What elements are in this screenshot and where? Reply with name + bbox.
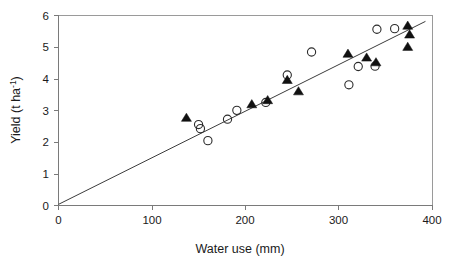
svg-text:Yield (t ha-1): Yield (t ha-1) <box>8 76 23 144</box>
data-point-open-circle <box>233 106 241 114</box>
y-tick-label: 3 <box>43 105 49 117</box>
data-point-filled-triangle <box>403 21 413 29</box>
series-filled-triangles <box>181 21 414 121</box>
data-point-filled-triangle <box>371 58 381 66</box>
data-point-filled-triangle <box>263 96 273 104</box>
y-tick-label: 0 <box>43 200 49 212</box>
x-tick-label: 400 <box>422 214 441 226</box>
data-point-open-circle <box>354 62 362 70</box>
scatter-plot: 0 1 2 3 4 5 6 0 100 200 300 400 Water us… <box>0 0 453 269</box>
x-tick-label: 300 <box>329 214 348 226</box>
x-axis-tick-labels: 0 100 200 300 400 <box>55 214 441 226</box>
x-tick-label: 100 <box>142 214 161 226</box>
data-point-filled-triangle <box>181 113 191 121</box>
y-axis-ticks <box>54 16 58 206</box>
series-open-circles <box>194 25 398 145</box>
x-axis-title: Water use (mm) <box>195 242 284 256</box>
regression-line <box>59 21 426 204</box>
data-point-open-circle <box>373 25 381 33</box>
data-point-open-circle <box>204 137 212 145</box>
y-tick-label: 2 <box>43 136 49 148</box>
data-point-open-circle <box>345 81 353 89</box>
data-point-open-circle <box>391 25 399 33</box>
y-axis-title: Yield (t ha-1) <box>8 76 23 144</box>
data-point-filled-triangle <box>362 53 372 61</box>
y-tick-label: 1 <box>43 168 49 180</box>
data-point-open-circle <box>307 48 315 56</box>
y-axis-tick-labels: 0 1 2 3 4 5 6 <box>43 10 50 212</box>
data-point-filled-triangle <box>247 100 257 108</box>
y-tick-label: 5 <box>43 41 49 53</box>
chart-figure: 0 1 2 3 4 5 6 0 100 200 300 400 Water us… <box>0 0 453 269</box>
data-point-filled-triangle <box>343 49 353 57</box>
x-tick-label: 200 <box>235 214 254 226</box>
y-axis-title-close: ) <box>9 76 23 80</box>
y-tick-label: 4 <box>43 73 50 85</box>
y-tick-label: 6 <box>43 10 49 22</box>
x-tick-label: 0 <box>55 214 61 226</box>
y-axis-title-base: Yield (t ha <box>9 88 23 144</box>
data-point-filled-triangle <box>293 87 303 95</box>
data-point-filled-triangle <box>403 42 413 50</box>
